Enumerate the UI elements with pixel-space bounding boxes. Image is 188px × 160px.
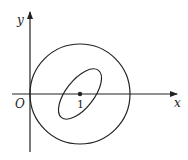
- y-axis-label: y: [16, 13, 24, 27]
- diagram: y x O 1: [0, 0, 188, 160]
- origin-label: O: [15, 97, 25, 111]
- point-label: 1: [77, 98, 84, 111]
- x-axis-label: x: [174, 96, 181, 110]
- center-point: [78, 92, 82, 96]
